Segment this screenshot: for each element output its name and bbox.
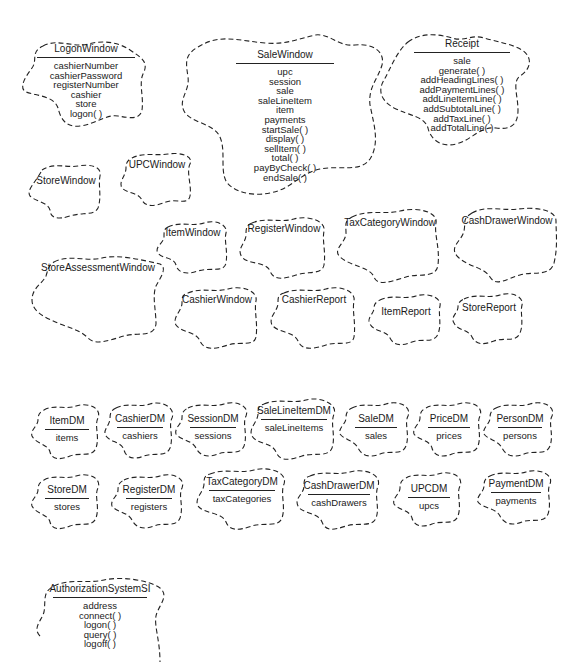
class-storereport[interactable]: StoreReport [452,293,526,345]
class-name: SaleDM [340,413,412,425]
class-cashdrawerwindow[interactable]: CashDrawerWindow [450,205,564,287]
cloud-outline [28,162,104,220]
divider [355,427,397,428]
class-name: StoreDM [32,484,102,496]
class-name: UPCDM [394,483,464,495]
divider [190,427,236,428]
class-name: SessionDM [176,413,250,425]
operation: logon( ) [18,109,154,119]
class-itemreport[interactable]: ItemReport [368,294,444,346]
class-upcdm[interactable]: UPCDM upcs [394,472,464,528]
cloud-outline [368,294,444,346]
class-registerwindow[interactable]: RegisterWindow [238,215,330,281]
attribute: upcs [394,501,464,511]
class-name: ItemWindow [156,227,230,239]
class-name: CashierWindow [174,294,260,306]
class-itemdm[interactable]: ItemDM items [32,404,102,460]
class-storeassessmentwindow[interactable]: StoreAssessmentWindow [30,254,166,346]
class-name: PriceDM [414,413,484,425]
divider [37,57,135,58]
class-registerdm[interactable]: RegisterDM registers [112,474,186,530]
class-salelineitemdm[interactable]: SaleLineItemDM saleLineItems [250,398,338,462]
class-storewindow[interactable]: StoreWindow [28,162,104,220]
class-name: PersonDM [484,413,556,425]
class-name: LogonWindow [18,43,154,55]
class-cashierreport[interactable]: CashierReport [270,287,358,351]
class-persondm[interactable]: PersonDM persons [484,402,556,458]
class-salewindow[interactable]: SaleWindow upc session sale saleLineItem… [180,33,390,203]
divider [236,63,334,64]
class-cashierwindow[interactable]: CashierWindow [174,287,260,351]
class-storedm[interactable]: StoreDM stores [32,474,102,530]
divider [414,52,510,53]
class-cashdrawerdm[interactable]: CashDrawerDM cashDrawers [296,470,382,532]
attribute: items [32,433,102,443]
divider [209,490,275,491]
class-name: StoreReport [452,302,526,314]
attribute: sessions [176,431,250,441]
class-sessiondm[interactable]: SessionDM sessions [176,402,250,458]
divider [117,427,163,428]
class-name: PaymentDM [478,478,554,490]
attribute: cashiers [104,431,176,441]
class-name: CashDrawerWindow [450,215,564,227]
class-name: SaleWindow [180,49,390,61]
class-name: ItemReport [368,306,444,318]
class-saledm[interactable]: SaleDM sales [340,402,412,458]
class-name: StoreWindow [28,175,104,187]
attribute: saleLineItems [250,423,338,433]
class-name: TaxCategoryWindow [334,217,446,229]
divider [53,597,147,598]
class-pricedm[interactable]: PriceDM prices [414,402,484,458]
class-name: RegisterDM [112,484,186,496]
class-name: AuthorizationSystemSI [30,583,170,595]
attribute: registers [112,502,186,512]
attribute: payments [478,496,554,506]
divider [45,498,89,499]
class-name: CashierDM [104,413,176,425]
divider [45,429,89,430]
attribute: stores [32,502,102,512]
class-taxcategorydm[interactable]: TaxCategoryDM taxCategories [196,468,288,532]
class-taxcategorywindow[interactable]: TaxCategoryWindow [334,207,446,287]
operation: logoff( ) [30,639,170,649]
divider [408,497,450,498]
class-name: TaxCategoryDM [196,476,288,488]
class-itemwindow[interactable]: ItemWindow [156,221,230,275]
operation: addTotalLine( ) [372,123,552,133]
class-receipt[interactable]: Receipt sale generate( ) addHeadingLines… [372,30,552,152]
divider [428,427,470,428]
class-name: CashierReport [270,294,358,306]
attribute: taxCategories [196,494,288,504]
class-upcwindow[interactable]: UPCWindow [120,152,194,208]
divider [308,494,370,495]
class-name: RegisterWindow [238,223,330,235]
attribute: prices [414,431,484,441]
divider [498,427,542,428]
divider [491,492,541,493]
cloud-outline [452,293,526,345]
attribute: sales [340,431,412,441]
class-paymentdm[interactable]: PaymentDM payments [478,470,554,526]
class-name: SaleLineItemDM [250,405,338,417]
class-logonwindow[interactable]: LogonWindow cashierNumber cashierPasswor… [18,38,154,128]
class-cashierdm[interactable]: CashierDM cashiers [104,402,176,460]
divider [261,419,327,420]
operation: endSale( ) [180,173,390,183]
attribute: persons [484,431,556,441]
class-name: ItemDM [32,415,102,427]
attribute: cashDrawers [296,498,382,508]
class-name: CashDrawerDM [296,480,382,492]
class-authorizationsystemsi[interactable]: AuthorizationSystemSI address connect( )… [30,576,170,662]
class-name: StoreAssessmentWindow [30,262,166,274]
class-name: UPCWindow [120,159,194,171]
divider [126,498,172,499]
class-name: Receipt [372,38,552,50]
